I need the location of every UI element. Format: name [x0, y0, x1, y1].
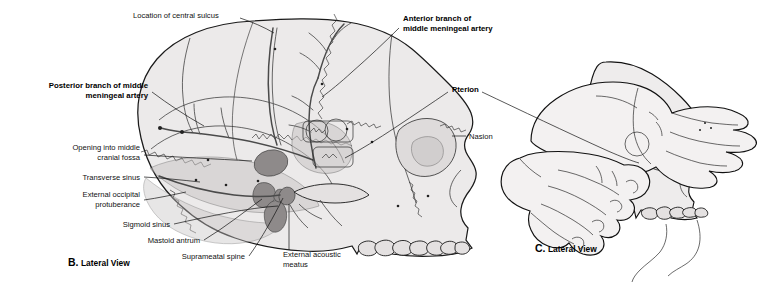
anatomy-figure: Location of central sulcus Anterior bran…: [0, 0, 768, 282]
caption-b-letter: B.: [68, 256, 79, 268]
caption-b-text: Lateral View: [81, 258, 130, 268]
marker-dot-5: [225, 184, 228, 187]
marker-dot-4: [195, 179, 198, 182]
label-transverse-sinus: Transverse sinus: [82, 173, 140, 182]
label-pterion: Pterion: [452, 85, 479, 94]
label-mastoid-antrum: Mastoid antrum: [148, 236, 200, 245]
marker-dot-6: [257, 180, 260, 183]
label-external-occipital-protuberance-line2: protuberance: [95, 200, 140, 209]
label-anterior-branch-line1: Anterior branch of: [403, 14, 471, 23]
label-external-occipital-protuberance-line1: External occipital: [83, 190, 141, 199]
label-nasion: Nasion: [469, 132, 493, 141]
label-sigmoid-sinus: Sigmoid sinus: [123, 220, 170, 229]
marker-dot-2: [321, 83, 324, 86]
upper-hand-dot-1: [704, 122, 706, 124]
label-posterior-branch-line1: Posterior branch of middle: [49, 81, 149, 90]
label-posterior-branch-line2: meningeal artery: [86, 91, 149, 100]
marker-dot-1: [274, 48, 277, 51]
marker-dot-11: [158, 126, 162, 130]
orbit-inner-shadow: [411, 137, 443, 167]
marker-dot-3: [207, 159, 210, 162]
marker-dot-12: [180, 130, 184, 134]
caption-c-letter: C.: [535, 242, 546, 254]
label-suprameatal-spine: Suprameatal spine: [182, 252, 245, 261]
label-anterior-branch-line2: middle meningeal artery: [403, 24, 493, 33]
label-opening-middle-cranial-fossa-line1: Opening into middle: [72, 143, 140, 152]
upper-hand-dot-3: [699, 129, 701, 131]
label-external-acoustic-meatus-line2: meatus: [283, 260, 308, 269]
caption-c-text: Lateral View: [548, 244, 597, 254]
label-external-acoustic-meatus-line1: External acoustic: [283, 250, 341, 259]
marker-dot-7: [346, 128, 349, 131]
label-location-of-central-sulcus: Location of central sulcus: [133, 11, 219, 20]
marker-dot-9: [397, 205, 400, 208]
marker-dot-10: [427, 195, 430, 198]
upper-hand-dot-2: [710, 127, 712, 129]
label-opening-middle-cranial-fossa-line2: cranial fossa: [97, 153, 140, 162]
